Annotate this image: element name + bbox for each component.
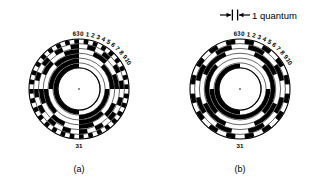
disk-b-bottom-label: 31 <box>237 142 244 149</box>
disk-a-bottom-label: 31 <box>76 142 83 149</box>
disk-a-code-rings <box>29 39 129 139</box>
panel-a-caption: (a) <box>74 164 85 174</box>
disk-centre-mark <box>239 88 241 90</box>
code-segment <box>124 84 129 89</box>
code-segment <box>74 39 79 44</box>
disk-centre-mark <box>78 88 80 90</box>
code-segment <box>29 89 34 94</box>
panel-b-caption: (b) <box>235 164 246 174</box>
code-segment <box>79 134 84 139</box>
quantum-label-text: 1 quantum <box>252 10 297 21</box>
figure-canvas: 63012345678910 31 (a) 63012345678910 31 … <box>0 0 318 188</box>
encoder-disk-figure: 63012345678910 31 (a) 63012345678910 31 … <box>0 0 318 188</box>
